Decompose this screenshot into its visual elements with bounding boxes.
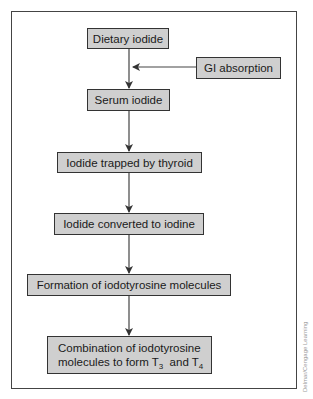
node-combination: Combination of iodotyrosine molecules to…: [47, 336, 212, 374]
node-label-line1: Combination of iodotyrosine: [58, 341, 203, 355]
node-dietary-iodide: Dietary iodide: [87, 28, 169, 49]
node-iodide-converted: Iodide converted to iodine: [54, 213, 204, 235]
node-label: Formation of iodotyrosine molecules: [37, 278, 222, 292]
node-label-line2: molecules to form T3 and T4: [58, 355, 203, 369]
node-label: GI absorption: [204, 61, 273, 75]
node-label: Dietary iodide: [93, 32, 163, 46]
node-formation-iodotyrosine: Formation of iodotyrosine molecules: [27, 274, 231, 296]
node-label: Iodide converted to iodine: [63, 217, 195, 231]
node-label: Iodide trapped by thyroid: [66, 156, 193, 170]
node-iodide-trapped: Iodide trapped by thyroid: [57, 152, 202, 173]
node-label: Serum iodide: [95, 93, 163, 107]
credit-watermark: Delmar/Cengage Learning: [302, 322, 308, 392]
node-serum-iodide: Serum iodide: [87, 89, 170, 111]
node-gi-absorption: GI absorption: [196, 57, 281, 79]
